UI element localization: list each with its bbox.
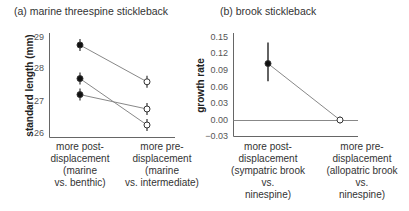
panel-a-series [77, 39, 150, 131]
data-point [265, 61, 271, 67]
panel-a-axes [50, 33, 176, 138]
data-point [144, 122, 150, 128]
plot-canvas [0, 0, 409, 211]
data-point [77, 92, 83, 98]
panel-b-series [265, 43, 343, 124]
data-point [144, 106, 150, 112]
data-point [144, 79, 150, 85]
data-point [337, 117, 343, 123]
data-point [77, 42, 83, 48]
data-point [77, 76, 83, 82]
